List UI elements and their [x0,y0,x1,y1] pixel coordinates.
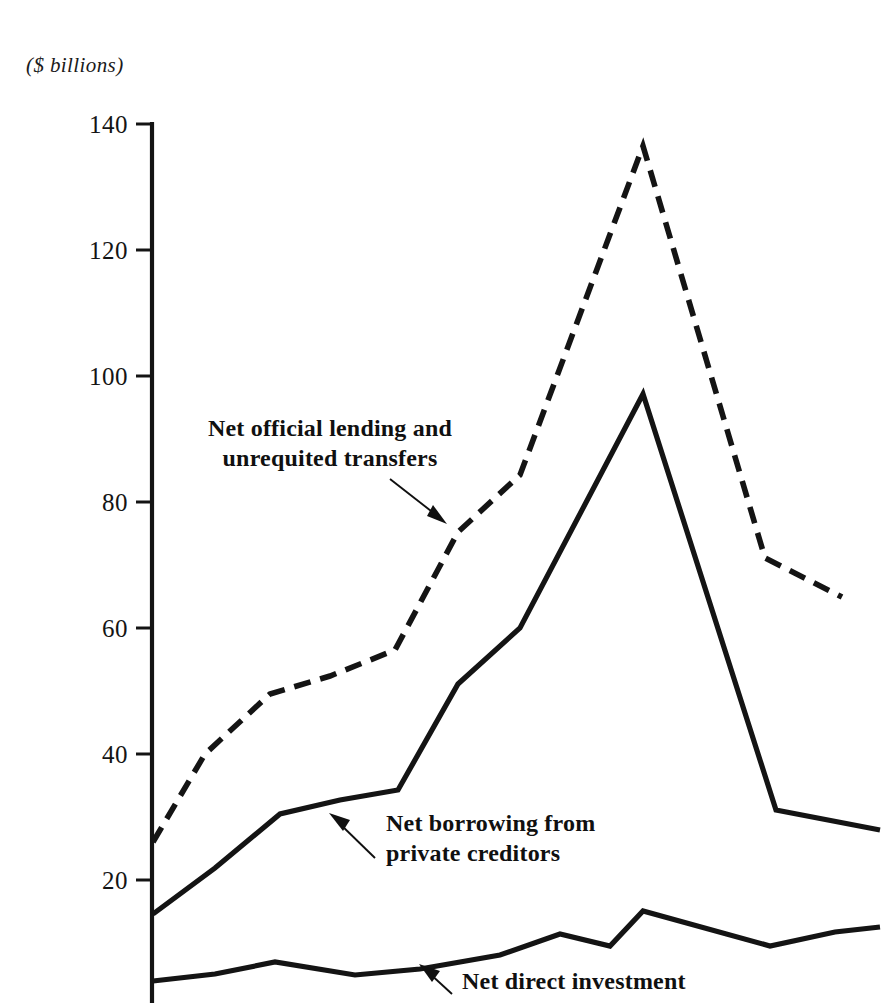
chart-figure: ($ billions) 140 120 100 80 [0,0,894,1003]
annotation-official-lending-line2: unrequited transfers [223,445,438,471]
y-tick-120: 120 [89,237,152,264]
annotation-private-creditors-line2: private creditors [386,840,560,866]
y-tick-label-80: 80 [102,489,128,516]
annotation-private-creditors-arrowhead [329,813,350,831]
y-axis-unit-label: ($ billions) [26,53,124,78]
y-tick-label-20: 20 [102,867,128,894]
series-net-borrowing-private-creditors [153,394,880,914]
y-axis: 140 120 100 80 60 [89,111,152,1003]
y-tick-80: 80 [102,489,152,516]
annotation-official-lending-line1: Net official lending and [208,415,453,441]
y-tick-60: 60 [102,615,152,642]
y-tick-40: 40 [102,741,152,768]
y-tick-140: 140 [89,111,152,138]
y-tick-label-40: 40 [102,741,128,768]
y-tick-label-140: 140 [89,111,128,138]
annotation-private-creditors-line1: Net borrowing from [386,810,595,836]
annotation-direct-investment-line1: Net direct investment [462,968,686,994]
annotation-net-borrowing-private-creditors: Net borrowing from private creditors [329,810,595,866]
y-tick-label-100: 100 [89,363,128,390]
annotation-net-official-lending: Net official lending and unrequited tran… [208,415,453,524]
series-net-official-lending [153,146,842,842]
line-chart-canvas: 140 120 100 80 60 [0,0,894,1003]
y-tick-20: 20 [102,867,152,894]
y-tick-label-60: 60 [102,615,128,642]
annotation-official-lending-arrowhead [427,505,447,524]
y-tick-100: 100 [89,363,152,390]
annotation-net-direct-investment: Net direct investment [419,964,686,994]
y-tick-label-120: 120 [89,237,128,264]
